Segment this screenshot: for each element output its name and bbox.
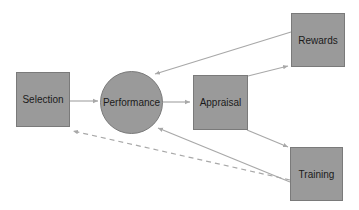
node-appraisal-label: Appraisal (200, 97, 242, 108)
arrow-appraisal-to-training (247, 130, 288, 147)
node-selection-label: Selection (22, 94, 63, 105)
node-training-label: Training (299, 169, 335, 180)
arrow-appraisal-to-rewards (248, 66, 288, 76)
node-performance-label: Performance (103, 97, 160, 108)
arrow-training-to-selection-dashed (73, 131, 290, 180)
diagram-canvas: Selection Performance Appraisal Rewards … (0, 0, 359, 210)
node-performance: Performance (100, 71, 163, 134)
arrow-rewards-to-performance (155, 32, 291, 74)
node-training: Training (290, 147, 343, 201)
node-appraisal: Appraisal (193, 75, 248, 130)
node-rewards-label: Rewards (298, 35, 337, 46)
node-rewards: Rewards (291, 13, 345, 67)
node-selection: Selection (16, 72, 70, 127)
arrow-training-to-performance (158, 128, 290, 182)
